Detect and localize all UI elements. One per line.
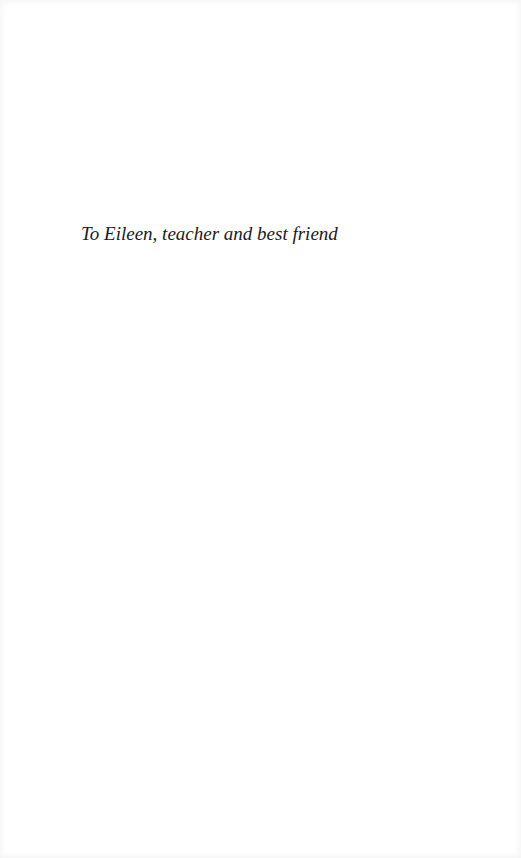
book-page: To Eileen, teacher and best friend: [0, 0, 521, 858]
dedication-text: To Eileen, teacher and best friend: [81, 223, 338, 245]
